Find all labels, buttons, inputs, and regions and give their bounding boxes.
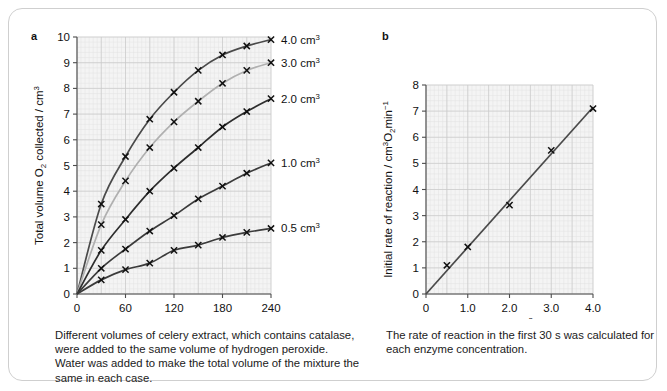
y-axis-title: Initial rate of reaction / cm3O2min−1 (381, 101, 397, 278)
panel-a-caption: Different volumes of celery extract, whi… (55, 328, 360, 385)
panel-b: b 01234567801.02.03.04.0Enzyme concentra… (364, 9, 658, 380)
series-label-1: 3.0 cm3 (281, 56, 320, 69)
y-axis-tick-label: 9 (64, 57, 70, 69)
x-axis-tick-label: 180 (213, 302, 232, 314)
x-axis-tick-label: 4.0 (585, 302, 601, 314)
y-axis-tick-label: 10 (57, 31, 70, 43)
x-axis-tick-label: 240 (261, 302, 280, 314)
y-axis-tick-label: 8 (64, 82, 70, 94)
series-label-2: 2.0 cm3 (281, 92, 320, 105)
x-axis-tick-label: 120 (164, 302, 183, 314)
chart-b: 01234567801.02.03.04.0Enzyme concentrati… (364, 9, 658, 319)
y-axis-tick-label: 4 (64, 185, 71, 197)
y-axis-tick-label: 5 (64, 160, 70, 172)
y-axis-tick-label: 6 (64, 134, 70, 146)
chart-a: 012345678910060120180240Time / sTotal vo… (9, 9, 364, 319)
x-axis-tick-label: 0 (423, 302, 429, 314)
y-axis-tick-label: 8 (413, 79, 419, 91)
series-label-0: 4.0 cm3 (281, 33, 320, 46)
y-axis-tick-label: 4 (413, 184, 420, 196)
y-axis-tick-label: 3 (413, 210, 419, 222)
y-axis-tick-label: 2 (413, 236, 419, 248)
y-axis-tick-label: 1 (64, 262, 70, 274)
series-label-3: 1.0 cm3 (281, 156, 320, 169)
x-axis-tick-label: 60 (119, 302, 132, 314)
x-axis-title: Time / s (154, 317, 195, 319)
y-axis-tick-label: 7 (413, 105, 419, 117)
y-axis-tick-label: 1 (413, 262, 419, 274)
y-axis-tick-label: 5 (413, 157, 419, 169)
y-axis-tick-label: 2 (64, 237, 70, 249)
y-axis-tick-label: 0 (413, 288, 419, 300)
x-axis-title: Enzyme concentration / cm3 of celery ext… (390, 316, 618, 319)
y-axis-title: Total volume O2 collected / cm3 (32, 86, 48, 245)
y-axis-tick-label: 6 (413, 131, 419, 143)
x-axis-tick-label: 3.0 (543, 302, 559, 314)
y-axis-tick-label: 3 (64, 211, 70, 223)
y-axis-tick-label: 0 (64, 288, 70, 300)
panel-b-caption: The rate of reaction in the first 30 s w… (386, 328, 656, 356)
x-axis-tick-label: 2.0 (502, 302, 518, 314)
grid (426, 85, 593, 294)
y-axis-tick-label: 7 (64, 108, 70, 120)
x-axis-tick-label: 0 (74, 302, 80, 314)
series-label-4: 0.5 cm3 (281, 221, 320, 234)
x-axis-tick-label: 1.0 (460, 302, 476, 314)
panel-a: a 012345678910060120180240Time / sTotal … (9, 9, 364, 380)
figure-card: a 012345678910060120180240Time / sTotal … (8, 8, 657, 381)
